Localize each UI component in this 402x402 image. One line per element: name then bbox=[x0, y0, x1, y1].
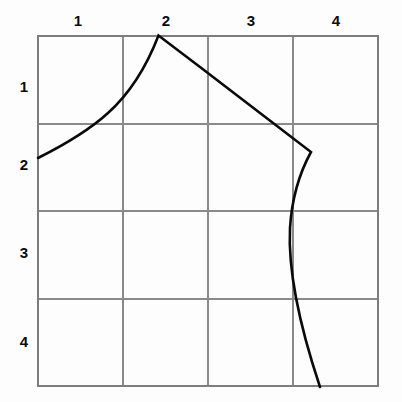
column-labels: 1234 bbox=[74, 12, 341, 29]
pattern-grid-diagram: 1234 1234 bbox=[0, 0, 402, 402]
column-label-1: 1 bbox=[74, 12, 82, 29]
column-label-4: 4 bbox=[332, 12, 341, 29]
row-label-4: 4 bbox=[20, 333, 29, 350]
column-label-2: 2 bbox=[162, 12, 170, 29]
row-label-1: 1 bbox=[20, 78, 28, 95]
column-label-3: 3 bbox=[247, 12, 255, 29]
grid-group bbox=[38, 36, 378, 386]
row-label-2: 2 bbox=[20, 156, 28, 173]
row-label-3: 3 bbox=[20, 244, 28, 261]
row-labels: 1234 bbox=[20, 78, 29, 350]
diagram-canvas: 1234 1234 bbox=[0, 0, 402, 402]
